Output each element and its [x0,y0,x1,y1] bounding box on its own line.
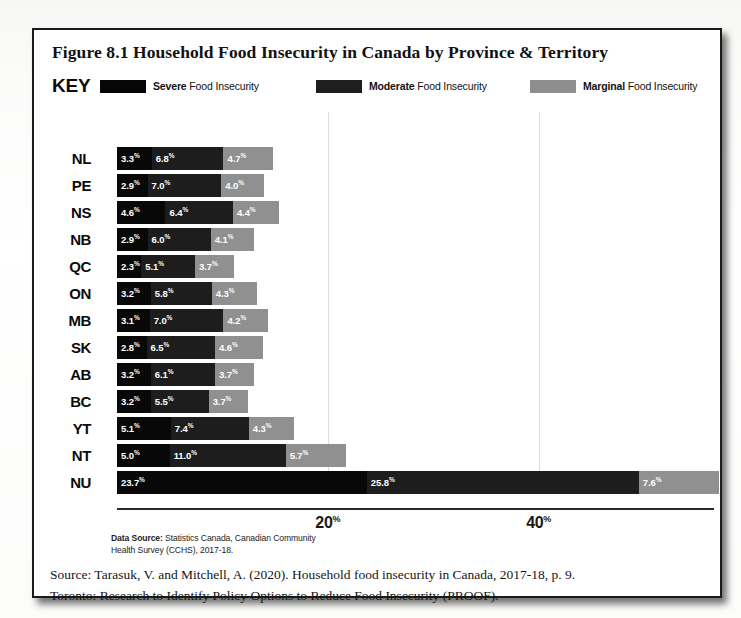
bar-value-label: 5.0% [121,444,140,467]
bar-value-label: 3.7% [213,390,232,413]
bar-value-label: 6.8% [156,147,175,170]
page-canvas: Figure 8.1 Household Food Insecurity in … [0,0,741,618]
bar-segment-mar-nt[interactable]: 5.7% [286,444,346,467]
bar-value-label: 5.1% [121,417,140,440]
bar-track: 2.3%5.1%3.7% [117,255,234,278]
bar-value-label: 2.9% [121,228,140,251]
citation-line-2: Toronto: Research to Identify Policy Opt… [50,585,710,606]
bar-segment-mar-nu[interactable]: 7.6% [639,471,719,494]
bar-segment-sev-qc[interactable]: 2.3% [117,255,141,278]
data-source-note: Data Source: Statistics Canada, Canadian… [111,533,326,556]
bar-value-label: 4.1% [215,228,234,251]
bar-value-label: 3.2% [121,363,140,386]
bar-value-label: 7.4% [175,417,194,440]
bar-row-label-bc: BC [42,390,99,413]
bar-segment-sev-on[interactable]: 3.2% [117,282,151,305]
bar-segment-sev-nl[interactable]: 3.3% [117,147,152,170]
bar-segment-sev-sk[interactable]: 2.8% [117,336,147,359]
bar-segment-sev-ns[interactable]: 4.6% [117,201,165,224]
bar-row-label-pe: PE [42,174,99,197]
bar-segment-mod-pe[interactable]: 7.0% [148,174,222,197]
bar-segment-mod-ab[interactable]: 6.1% [151,363,215,386]
bar-segment-mar-yt[interactable]: 4.3% [249,417,294,440]
bar-row[interactable]: QC2.3%5.1%3.7% [42,255,716,278]
bar-segment-mod-nb[interactable]: 6.0% [148,228,211,251]
bar-track: 2.9%7.0%4.0% [117,174,264,197]
bar-track: 3.2%5.5%3.7% [117,390,248,413]
citation-line-1: Source: Tarasuk, V. and Mitchell, A. (20… [50,564,710,585]
bar-row[interactable]: BC3.2%5.5%3.7% [42,390,716,413]
bar-segment-sev-ab[interactable]: 3.2% [117,363,151,386]
bar-row[interactable]: ON3.2%5.8%4.3% [42,282,716,305]
legend-label-severe-rest: Food Insecurity [189,80,259,92]
bar-segment-mar-mb[interactable]: 4.2% [223,309,267,332]
bar-value-label: 4.6% [121,201,140,224]
legend-item-moderate: Moderate Food Insecurity [316,78,487,94]
legend-label-moderate-bold: Moderate [369,80,414,92]
legend-label-moderate: Moderate Food Insecurity [369,80,487,92]
bar-segment-mar-bc[interactable]: 3.7% [209,390,248,413]
bar-segment-mod-qc[interactable]: 5.1% [141,255,195,278]
bar-row[interactable]: NL3.3%6.8%4.7% [42,147,716,170]
bar-segment-mar-pe[interactable]: 4.0% [221,174,263,197]
bar-segment-mar-nl[interactable]: 4.7% [223,147,273,170]
bar-segment-sev-mb[interactable]: 3.1% [117,309,150,332]
bar-track: 3.2%6.1%3.7% [117,363,254,386]
bar-segment-sev-nu[interactable]: 23.7% [117,471,367,494]
x-axis-line [117,508,714,510]
bar-row[interactable]: NT5.0%11.0%5.7% [42,444,716,467]
bar-value-label: 4.3% [253,417,272,440]
bar-value-label: 4.7% [227,147,246,170]
bar-row[interactable]: YT5.1%7.4%4.3% [42,417,716,440]
bar-track: 4.6%6.4%4.4% [117,201,279,224]
bar-row-label-on: ON [42,282,99,305]
bar-value-label: 2.8% [121,336,140,359]
bar-segment-mod-nu[interactable]: 25.8% [367,471,639,494]
bar-segment-mar-on[interactable]: 4.3% [212,282,257,305]
bar-track: 3.1%7.0%4.2% [117,309,268,332]
bar-value-label: 6.4% [169,201,188,224]
bar-value-label: 6.0% [152,228,171,251]
legend-key-label: KEY [52,75,90,97]
bar-segment-mod-ns[interactable]: 6.4% [165,201,232,224]
bar-segment-sev-pe[interactable]: 2.9% [117,174,148,197]
bar-value-label: 3.2% [121,390,140,413]
bar-segment-mod-nl[interactable]: 6.8% [152,147,224,170]
bar-segment-sev-bc[interactable]: 3.2% [117,390,151,413]
bar-row-label-ns: NS [42,201,99,224]
bar-segment-sev-nt[interactable]: 5.0% [117,444,170,467]
source-citation: Source: Tarasuk, V. and Mitchell, A. (20… [50,564,710,606]
legend-label-severe: Severe Food Insecurity [153,80,259,92]
bar-track: 2.9%6.0%4.1% [117,228,254,251]
bar-row-label-qc: QC [42,255,99,278]
bar-segment-mar-ns[interactable]: 4.4% [233,201,279,224]
bar-segment-mod-sk[interactable]: 6.5% [147,336,216,359]
bar-segment-sev-nb[interactable]: 2.9% [117,228,148,251]
bar-segment-mod-yt[interactable]: 7.4% [171,417,249,440]
bar-segment-mod-nt[interactable]: 11.0% [170,444,286,467]
bar-value-label: 4.3% [216,282,235,305]
bar-row[interactable]: PE2.9%7.0%4.0% [42,174,716,197]
bar-segment-mod-on[interactable]: 5.8% [151,282,212,305]
x-tick-40: 40% [526,514,551,532]
bar-segment-mod-mb[interactable]: 7.0% [150,309,224,332]
bar-row[interactable]: NS4.6%6.4%4.4% [42,201,716,224]
bar-segment-mar-sk[interactable]: 4.6% [215,336,263,359]
bar-segment-mar-qc[interactable]: 3.7% [195,255,234,278]
bar-row[interactable]: NU23.7%25.8%7.6% [42,471,716,494]
bar-row-label-nu: NU [42,471,99,494]
bar-segment-mar-ab[interactable]: 3.7% [215,363,254,386]
legend-item-severe: Severe Food Insecurity [100,78,259,94]
legend-label-marginal-rest: Food Insecurity [628,80,698,92]
legend-label-marginal: Marginal Food Insecurity [583,80,697,92]
bar-segment-mar-nb[interactable]: 4.1% [211,228,254,251]
bar-row[interactable]: SK2.8%6.5%4.6% [42,336,716,359]
bar-track: 5.0%11.0%5.7% [117,444,346,467]
bar-value-label: 5.7% [290,444,309,467]
bar-row[interactable]: AB3.2%6.1%3.7% [42,363,716,386]
bar-row[interactable]: MB3.1%7.0%4.2% [42,309,716,332]
bar-segment-mod-bc[interactable]: 5.5% [151,390,209,413]
bar-segment-sev-yt[interactable]: 5.1% [117,417,171,440]
bar-value-label: 6.5% [151,336,170,359]
bar-row[interactable]: NB2.9%6.0%4.1% [42,228,716,251]
